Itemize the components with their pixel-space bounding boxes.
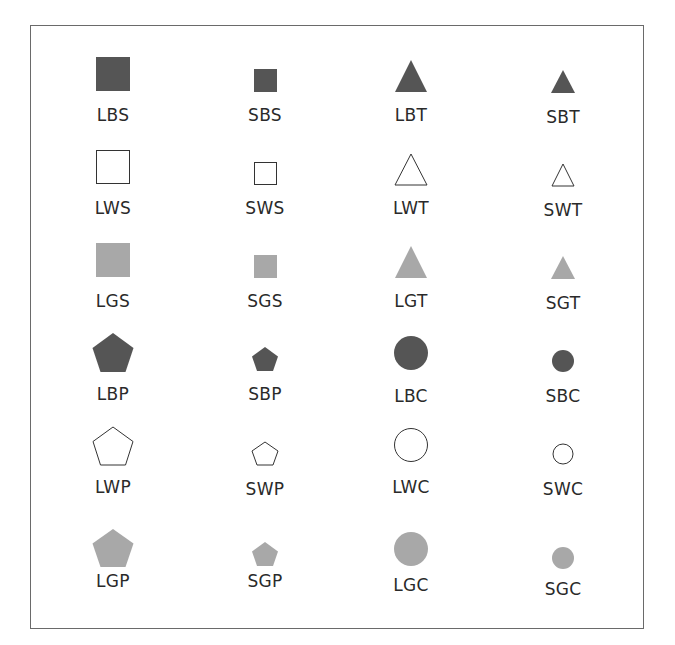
stimulus-label: LWC <box>351 477 471 497</box>
small-black-square-icon <box>205 55 325 105</box>
large-white-pentagon-icon <box>53 427 173 477</box>
stimulus-sbt: SBT <box>503 55 623 145</box>
stimulus-label: SGP <box>205 571 325 591</box>
small-white-circle-icon <box>503 427 623 477</box>
stimulus-sbs: SBS <box>205 55 325 145</box>
stimulus-swp: SWP <box>205 427 325 517</box>
stimulus-sws: SWS <box>205 148 325 238</box>
stimulus-label: LBC <box>351 386 471 406</box>
small-gray-circle-icon <box>503 527 623 577</box>
stimulus-label: LGS <box>53 291 173 311</box>
large-white-triangle-icon <box>351 148 471 198</box>
stimulus-label: SGC <box>503 579 623 599</box>
stimulus-lwc: LWC <box>351 427 471 517</box>
stimulus-label: SBP <box>205 384 325 404</box>
stimulus-label: SWC <box>503 479 623 499</box>
stimulus-label: LWP <box>53 477 173 497</box>
stimulus-lwt: LWT <box>351 148 471 238</box>
stimulus-lgp: LGP <box>53 527 173 617</box>
stimulus-sbp: SBP <box>205 334 325 424</box>
stimulus-label: SGS <box>205 291 325 311</box>
stimulus-label: SBT <box>503 107 623 127</box>
stimulus-label: SBS <box>205 105 325 125</box>
stimulus-label: LWT <box>351 198 471 218</box>
small-gray-square-icon <box>205 241 325 291</box>
stimulus-label: SGT <box>503 293 623 313</box>
stimulus-label: LBP <box>53 384 173 404</box>
large-gray-triangle-icon <box>351 241 471 291</box>
stimulus-sgc: SGC <box>503 527 623 617</box>
stimulus-lgc: LGC <box>351 527 471 617</box>
stimulus-lbt: LBT <box>351 55 471 145</box>
stimulus-swt: SWT <box>503 148 623 238</box>
stimulus-lwp: LWP <box>53 427 173 517</box>
large-white-circle-icon <box>351 427 471 477</box>
stimulus-label: SBC <box>503 386 623 406</box>
small-white-triangle-icon <box>503 148 623 198</box>
stimulus-lws: LWS <box>53 148 173 238</box>
small-black-circle-icon <box>503 334 623 384</box>
large-black-square-icon <box>53 55 173 105</box>
large-white-square-icon <box>53 148 173 198</box>
stimulus-label: SWP <box>205 479 325 499</box>
stimulus-label: LBT <box>351 105 471 125</box>
stimulus-lbc: LBC <box>351 334 471 424</box>
stimulus-label: SWS <box>205 198 325 218</box>
stimulus-label: LBS <box>53 105 173 125</box>
stimulus-label: LGC <box>351 575 471 595</box>
small-gray-triangle-icon <box>503 241 623 291</box>
small-black-pentagon-icon <box>205 334 325 384</box>
large-black-circle-icon <box>351 334 471 384</box>
small-white-pentagon-icon <box>205 427 325 477</box>
stimulus-label: SWT <box>503 200 623 220</box>
small-gray-pentagon-icon <box>205 527 325 577</box>
stimulus-label: LGT <box>351 291 471 311</box>
stimulus-lbp: LBP <box>53 334 173 424</box>
small-black-triangle-icon <box>503 55 623 105</box>
stimulus-swc: SWC <box>503 427 623 517</box>
large-black-triangle-icon <box>351 55 471 105</box>
stimulus-sgs: SGS <box>205 241 325 331</box>
stimulus-lbs: LBS <box>53 55 173 145</box>
stimulus-label: LWS <box>53 198 173 218</box>
stimulus-lgs: LGS <box>53 241 173 331</box>
stimulus-label: LGP <box>53 571 173 591</box>
small-white-square-icon <box>205 148 325 198</box>
stimulus-sgt: SGT <box>503 241 623 331</box>
stimulus-sgp: SGP <box>205 527 325 617</box>
large-gray-pentagon-icon <box>53 527 173 577</box>
stimulus-sbc: SBC <box>503 334 623 424</box>
large-gray-square-icon <box>53 241 173 291</box>
large-gray-circle-icon <box>351 527 471 577</box>
stimulus-lgt: LGT <box>351 241 471 331</box>
large-black-pentagon-icon <box>53 334 173 384</box>
